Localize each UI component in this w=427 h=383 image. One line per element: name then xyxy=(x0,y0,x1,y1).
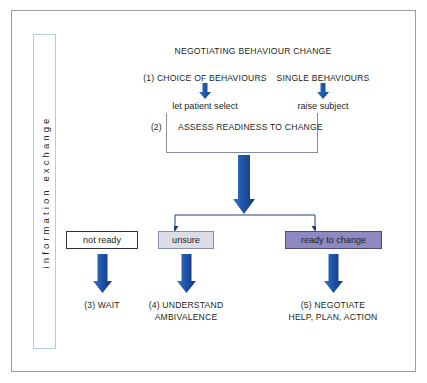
information-exchange-label: information exchange xyxy=(39,115,50,268)
outcome-box-not-ready[interactable]: not ready xyxy=(66,231,138,249)
arrow-down-ready-to-change xyxy=(323,254,344,294)
arrow-down-left-branch xyxy=(198,83,212,99)
result-not-ready-line1: (3) WAIT xyxy=(84,300,120,310)
arrow-down-not-ready xyxy=(92,254,113,294)
outcome-box-unsure-label: unsure xyxy=(172,235,200,245)
outcome-box-not-ready-label: not ready xyxy=(83,235,121,245)
branch-left-action: let patient select xyxy=(172,101,238,111)
branch-right-header: SINGLE BEHAVIOURS xyxy=(276,73,369,83)
result-ready-to-change-line2: HELP, PLAN, ACTION xyxy=(289,312,378,322)
result-not-ready: (3) WAIT xyxy=(84,300,120,312)
arrow-down-right-branch xyxy=(316,83,330,99)
result-unsure: (4) UNDERSTAND AMBIVALENCE xyxy=(149,300,224,323)
result-unsure-line2: AMBIVALENCE xyxy=(155,312,218,322)
assess-step-number: (2) xyxy=(151,122,162,132)
branch-left-header: (1) CHOICE OF BEHAVIOURS xyxy=(143,73,267,83)
outcome-box-unsure[interactable]: unsure xyxy=(158,231,214,249)
information-exchange-strip: information exchange xyxy=(33,34,56,349)
result-ready-to-change: (5) NEGOTIATE HELP, PLAN, ACTION xyxy=(289,300,378,323)
outcome-connector xyxy=(174,214,316,232)
assess-bracket xyxy=(166,113,318,153)
arrow-down-assess xyxy=(232,155,256,215)
result-ready-to-change-line1: (5) NEGOTIATE xyxy=(301,300,366,310)
result-unsure-line1: (4) UNDERSTAND xyxy=(149,300,224,310)
branch-right-action: raise subject xyxy=(297,101,348,111)
arrow-down-unsure xyxy=(176,254,197,294)
assess-readiness-label: ASSESS READINESS TO CHANGE xyxy=(178,122,323,132)
diagram-title: NEGOTIATING BEHAVIOUR CHANGE xyxy=(174,46,331,56)
outcome-box-ready-to-change-label: ready to change xyxy=(301,235,366,245)
diagram-canvas: information exchange NEGOTIATING BEHAVIO… xyxy=(0,0,427,383)
outcome-box-ready-to-change[interactable]: ready to change xyxy=(285,231,382,249)
